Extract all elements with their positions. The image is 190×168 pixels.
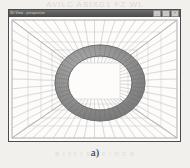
figure-caption: a) xyxy=(0,146,190,158)
maximize-button[interactable]: □ xyxy=(162,10,170,17)
minimize-button[interactable]: _ xyxy=(153,10,161,17)
window-controls: _ □ × xyxy=(153,10,179,17)
3d-viewport[interactable] xyxy=(9,17,180,141)
perspective-tunnel-scene xyxy=(9,17,180,141)
window-title-bar[interactable]: 3D View - perspective _ □ × xyxy=(9,10,180,17)
window-title: 3D View - perspective xyxy=(10,11,45,16)
close-button[interactable]: × xyxy=(171,10,179,17)
torus-mesh xyxy=(55,45,145,121)
application-window: 3D View - perspective _ □ × xyxy=(8,9,181,142)
